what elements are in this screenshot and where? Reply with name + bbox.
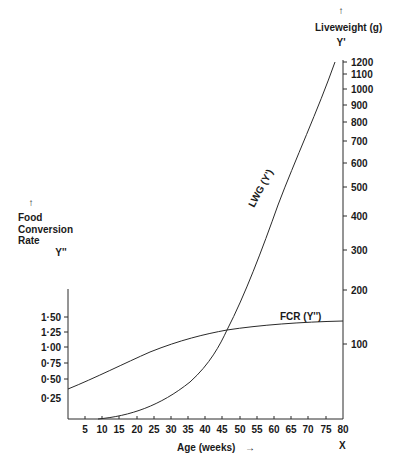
svg-text:200: 200 (351, 285, 368, 296)
svg-text:35: 35 (182, 424, 194, 435)
right-axis-symbol: Y' (336, 37, 345, 48)
x-axis-label: Age (weeks) (177, 442, 235, 453)
svg-text:400: 400 (351, 211, 368, 222)
left-axis-title-line2: Conversion (18, 224, 73, 235)
svg-text:800: 800 (351, 117, 368, 128)
svg-text:0·50: 0·50 (41, 374, 61, 385)
fcr-curve (68, 321, 343, 389)
svg-text:15: 15 (113, 424, 125, 435)
svg-text:700: 700 (351, 136, 368, 147)
left-axis-title-line1: Food (18, 212, 42, 223)
left-axis-symbol: Y'' (55, 247, 66, 258)
right-axis-up-arrow-icon: ↑ (339, 5, 344, 16)
svg-text:65: 65 (285, 424, 297, 435)
svg-text:1000: 1000 (351, 84, 374, 95)
fcr-curve-label: FCR (Y'') (280, 311, 321, 322)
svg-text:45: 45 (216, 424, 228, 435)
left-axis-title-line3: Rate (18, 235, 40, 246)
left-y-ticks (64, 317, 68, 379)
svg-text:25: 25 (148, 424, 160, 435)
x-axis-arrow-icon: → (245, 442, 255, 453)
left-axis-up-arrow-icon: ↑ (29, 197, 34, 208)
left-y-tick-labels: 1·50 1·25 1·00 0·75 0·50 0·25 (41, 312, 61, 404)
svg-text:60: 60 (268, 424, 280, 435)
svg-text:1100: 1100 (351, 69, 373, 80)
svg-text:20: 20 (131, 424, 143, 435)
right-y-tick-labels: 1200 1100 1000 900 800 700 600 500 400 3… (351, 57, 374, 350)
lwg-curve (98, 62, 335, 419)
right-y-ticks (343, 62, 347, 344)
svg-text:1200: 1200 (351, 57, 374, 68)
svg-text:1·25: 1·25 (41, 327, 61, 338)
svg-text:500: 500 (351, 182, 368, 193)
svg-text:80: 80 (337, 424, 349, 435)
svg-text:0·75: 0·75 (41, 358, 61, 369)
lwg-curve-label: LWG (Y') (246, 167, 275, 209)
svg-text:0·25: 0·25 (41, 393, 61, 404)
right-axis-title: Liveweight (g) (315, 22, 382, 33)
svg-text:75: 75 (320, 424, 332, 435)
svg-text:10: 10 (96, 424, 108, 435)
svg-text:70: 70 (302, 424, 314, 435)
svg-text:40: 40 (199, 424, 211, 435)
svg-text:30: 30 (165, 424, 177, 435)
x-tick-labels: 5 10 15 20 25 30 35 40 45 50 55 60 65 70… (82, 424, 349, 435)
svg-text:50: 50 (234, 424, 246, 435)
svg-text:1·00: 1·00 (41, 342, 61, 353)
chart: 5 10 15 20 25 30 35 40 45 50 55 60 65 70… (0, 0, 395, 466)
x-axis-symbol: X (339, 440, 346, 451)
svg-text:300: 300 (351, 245, 368, 256)
svg-text:5: 5 (82, 424, 88, 435)
svg-text:1·50: 1·50 (41, 312, 61, 323)
svg-text:100: 100 (351, 339, 368, 350)
svg-text:600: 600 (351, 158, 368, 169)
svg-text:900: 900 (351, 100, 368, 111)
svg-text:55: 55 (251, 424, 263, 435)
